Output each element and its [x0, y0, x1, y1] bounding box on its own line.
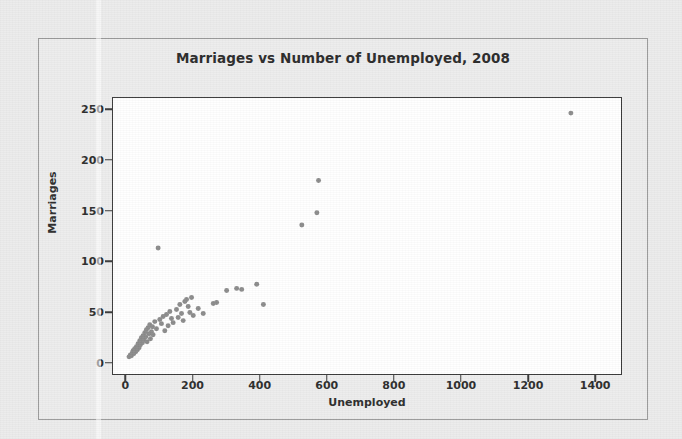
scatter-point — [154, 326, 159, 331]
x-axis-title: Unemployed — [112, 396, 622, 409]
scatter-point — [186, 304, 191, 309]
scatter-point — [152, 319, 157, 324]
x-tick-mark — [393, 375, 395, 382]
x-tick-mark — [594, 375, 596, 382]
y-axis-title: Marriages — [46, 143, 59, 263]
x-axis-tick-labels: 0200400600800100012001400 — [112, 379, 622, 395]
scatter-point — [191, 313, 196, 318]
x-tick-mark — [125, 375, 127, 382]
scatter-point — [184, 297, 189, 302]
scatter-points-layer — [113, 98, 621, 374]
y-tick-mark — [105, 261, 112, 263]
scatter-point — [214, 300, 219, 305]
scatter-point — [314, 210, 319, 215]
y-tick-label: 150 — [81, 204, 104, 217]
y-tick-mark — [105, 311, 112, 313]
scatter-point — [177, 302, 182, 307]
scatter-point — [196, 306, 201, 311]
y-tick-mark — [105, 108, 112, 110]
y-axis-tick-labels: 050100150200250 — [62, 97, 104, 375]
scatter-point — [167, 309, 172, 314]
chart-title: Marriages vs Number of Unemployed, 2008 — [38, 50, 648, 66]
scatter-point — [176, 315, 181, 320]
scatter-point — [162, 328, 167, 333]
x-tick-mark — [527, 375, 529, 382]
y-tick-mark — [105, 210, 112, 212]
scatter-point — [234, 286, 239, 291]
scatter-point — [151, 332, 156, 337]
x-tick-mark — [326, 375, 328, 382]
y-tick-mark — [105, 159, 112, 161]
scatter-point — [159, 321, 164, 326]
y-tick-label: 100 — [81, 255, 104, 268]
y-tick-label: 0 — [96, 356, 104, 369]
scatter-point — [239, 287, 244, 292]
scatter-point — [181, 318, 186, 323]
scatter-point — [156, 246, 161, 251]
chart-page: Marriages vs Number of Unemployed, 2008 … — [0, 0, 682, 439]
scatter-point — [171, 320, 176, 325]
x-tick-mark — [460, 375, 462, 382]
scatter-point — [316, 178, 321, 183]
scatter-point — [201, 311, 206, 316]
scatter-point — [261, 302, 266, 307]
y-tick-mark — [105, 362, 112, 364]
scatter-point — [299, 222, 304, 227]
scatter-point — [189, 295, 194, 300]
scatter-point — [224, 288, 229, 293]
scatter-point — [568, 111, 573, 116]
scatter-point — [174, 307, 179, 312]
x-tick-mark — [192, 375, 194, 382]
y-tick-label: 50 — [89, 306, 104, 319]
plot-area — [112, 97, 622, 375]
scatter-point — [254, 282, 259, 287]
scatter-point — [179, 311, 184, 316]
y-tick-label: 200 — [81, 153, 104, 166]
y-tick-label: 250 — [81, 103, 104, 116]
x-tick-mark — [259, 375, 261, 382]
scatter-point — [166, 323, 171, 328]
